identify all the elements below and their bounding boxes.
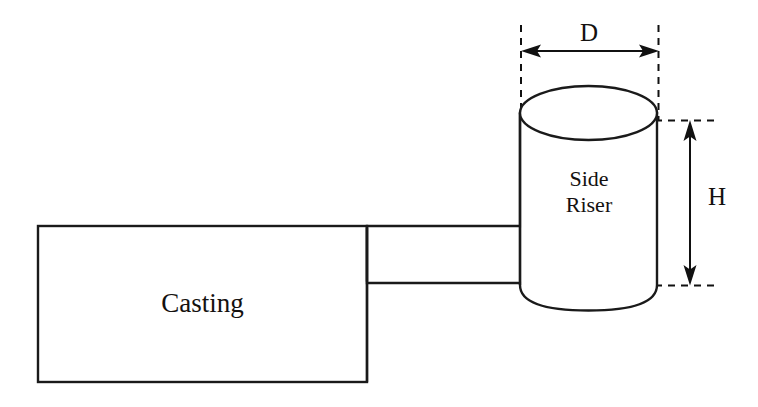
height-dimension-group [684, 120, 697, 286]
riser-top-ellipse [520, 86, 657, 140]
height-dimension-label: H [700, 182, 734, 212]
casting-riser-diagram: Casting Side Riser D H [0, 0, 758, 407]
diameter-dimension-label: D [545, 18, 633, 48]
side-riser-label-line1: Side [520, 166, 658, 192]
casting-label: Casting [0, 288, 405, 320]
side-riser-label-line2: Riser [520, 192, 658, 218]
side-riser-label: Side Riser [520, 166, 658, 218]
gate-neck-rectangle [367, 226, 521, 283]
